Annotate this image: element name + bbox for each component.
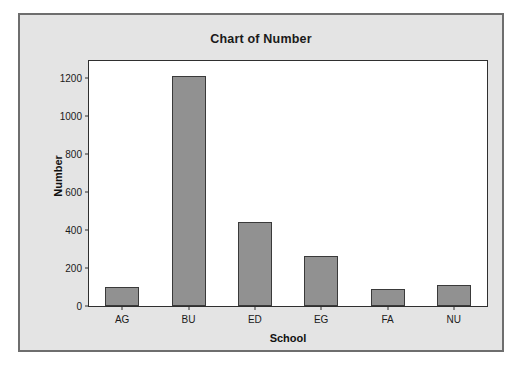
bar-ag <box>105 287 139 306</box>
chart-title: Chart of Number <box>20 32 502 46</box>
y-tick-mark <box>85 192 89 193</box>
bar-bu <box>172 76 206 306</box>
x-axis-label: School <box>88 332 488 344</box>
x-tick-mark <box>453 306 454 310</box>
y-tick-mark <box>85 268 89 269</box>
y-axis-label: Number <box>52 136 64 216</box>
x-tick-mark <box>321 306 322 310</box>
y-tick-mark <box>85 154 89 155</box>
y-tick-mark <box>85 230 89 231</box>
x-tick-mark <box>387 306 388 310</box>
x-tick-mark <box>254 306 255 310</box>
bar-nu <box>437 285 471 306</box>
bar-eg <box>304 256 338 306</box>
figure-root: Chart of Number Number School 0200400600… <box>0 0 522 370</box>
y-tick-mark <box>85 306 89 307</box>
x-tick-mark <box>188 306 189 310</box>
chart-panel: Chart of Number Number School 0200400600… <box>18 13 504 352</box>
bar-ed <box>238 222 272 306</box>
bar-fa <box>371 289 405 306</box>
y-tick-mark <box>85 116 89 117</box>
y-tick-mark <box>85 78 89 79</box>
x-tick-mark <box>122 306 123 310</box>
plot-area: 020040060080010001200 AGBUEDEGFANU <box>88 60 488 307</box>
